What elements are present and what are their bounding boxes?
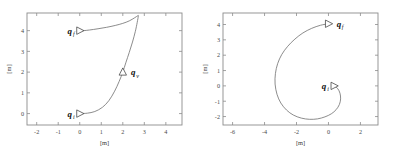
y-tick-label: -1 [215,98,220,105]
pose-label-base: q [68,109,73,119]
pose-label-base: q [68,26,73,36]
pose-label-base: q [322,81,327,91]
y-tick-label: 4 [217,21,220,28]
x-tick-label: 2 [359,128,362,135]
pose-label-subscript: i [73,114,75,120]
y-tick-label: 2 [21,68,24,75]
y-tick-label: 0 [217,82,220,89]
x-tick-label: -2 [34,128,39,135]
panel-left-trajectory: -2-10123401234[m][m]qfqvqi [0,0,197,155]
x-tick-label: 0 [327,128,330,135]
y-tick-label: 0 [21,110,24,117]
pose-label-subscript: f [73,31,76,37]
pose-marker-f [77,27,84,34]
trajectory-curve [275,24,341,120]
x-tick-label: 4 [164,128,167,135]
pose-marker-v [119,68,126,75]
x-axis-label: [m] [100,139,109,146]
plot-axis-frame [223,13,378,125]
x-tick-label: 3 [143,128,146,135]
pose-label-subscript: i [327,86,329,92]
plot-axis-frame [27,13,182,125]
figure-two-panel-trajectory-plots: -2-10123401234[m][m]qfqvqi -6-4-202-2-10… [0,0,393,155]
x-tick-label: -4 [262,128,267,135]
pose-label-group-f: qf [337,19,345,30]
pose-marker-i [77,110,84,117]
trajectory-curve [80,15,139,113]
y-tick-label: 2 [217,51,220,58]
pose-label-subscript: f [342,24,345,30]
x-tick-label: 0 [78,128,81,135]
pose-label-group-v: qv [131,67,139,78]
pose-label-group-f: qf [68,26,77,37]
plot-right-svg: -6-4-202-2-101234[m][m]qfqi [196,0,393,155]
y-axis-label: [m] [201,64,208,73]
x-tick-label: -1 [56,128,61,135]
y-tick-label: 1 [217,67,220,74]
x-tick-label: -2 [294,128,299,135]
y-tick-label: 1 [21,89,24,96]
y-axis-label: [m] [5,64,12,73]
x-tick-label: 1 [100,128,103,135]
plot-left-svg: -2-10123401234[m][m]qfqvqi [0,0,197,155]
pose-label-group-i: qi [322,81,330,92]
pose-label-subscript: v [136,73,139,79]
pose-marker-f [325,20,332,27]
y-tick-label: -2 [215,113,220,120]
y-tick-label: 3 [217,36,220,43]
pose-label-group-i: qi [68,109,76,120]
panel-right-trajectory: -6-4-202-2-101234[m][m]qfqi [196,0,393,155]
x-tick-label: 2 [121,128,124,135]
y-tick-label: 4 [21,27,24,34]
x-tick-label: -6 [230,128,235,135]
x-axis-label: [m] [296,139,305,146]
y-tick-label: 3 [21,48,24,55]
